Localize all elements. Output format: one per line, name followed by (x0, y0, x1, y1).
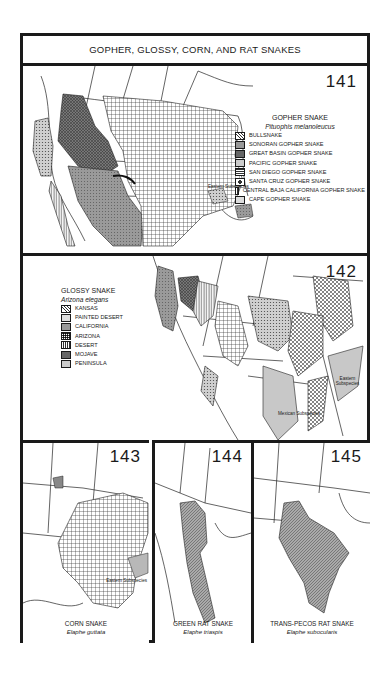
legend-item: CAPE GOPHER SNAKE (235, 195, 365, 204)
plate-frame: GOPHER, GLOSSY, CORN, AND RAT SNAKES (20, 33, 370, 643)
page-title: GOPHER, GLOSSY, CORN, AND RAT SNAKES (23, 36, 367, 66)
caption-green-rat-snake: GREEN RAT SNAKE Elaphe triaspis (155, 619, 251, 637)
legend-scientific-name: Pituophis melanoleucus (235, 122, 365, 131)
map-number: 142 (326, 262, 357, 282)
corn-snake-range-map (23, 443, 149, 643)
map-panel-144: 144 GREEN RAT SNAKE Elaphe triaspis (152, 440, 251, 643)
legend-item: CENTRAL BAJA CALIFORNIA GOPHER SNAKE (235, 186, 365, 195)
legend-item: KANSAS (61, 304, 151, 313)
swatch-icon (61, 323, 71, 331)
scientific-name: Elaphe subocularis (254, 628, 370, 637)
map-panel-142: 142 Eastern Subspecies Mexican Subspecie… (23, 253, 367, 440)
map-panel-145: 145 TRANS-PECOS RAT SNAKE Elaphe subocul… (251, 440, 370, 643)
swatch-icon (235, 132, 245, 140)
swatch-icon (61, 351, 71, 359)
swatch-icon (235, 168, 245, 176)
map-number: 144 (212, 447, 243, 467)
legend-item: PAINTED DESERT (61, 313, 151, 322)
caption-trans-pecos-rat-snake: TRANS-PECOS RAT SNAKE Elaphe subocularis (254, 619, 370, 637)
map-number: 145 (331, 447, 362, 467)
legend-item: ARIZONA (61, 332, 151, 341)
swatch-icon (235, 159, 245, 167)
swatch-icon (61, 360, 71, 368)
scientific-name: Elaphe triaspis (155, 628, 251, 637)
legend-item: PACIFIC GOPHER SNAKE (235, 159, 365, 168)
swatch-icon (61, 314, 71, 322)
legend-title: GLOSSY SNAKE (61, 286, 151, 295)
legend-title: GOPHER SNAKE (235, 113, 365, 122)
swatch-icon (235, 178, 245, 186)
annotation-eastern-subspecies: Eastern Subspecies (106, 578, 147, 583)
legend-glossy-snake: GLOSSY SNAKE Arizona elegans KANSAS PAIN… (61, 286, 151, 368)
legend-scientific-name: Arizona elegans (61, 295, 151, 304)
legend-item: GREAT BASIN GOPHER SNAKE (235, 149, 365, 158)
swatch-icon (235, 141, 245, 149)
legend-item: MOJAVE (61, 350, 151, 359)
swatch-icon (235, 150, 245, 158)
legend-item: PENINSULA (61, 359, 151, 368)
scientific-name: Elaphe guttata (23, 628, 149, 637)
annotation-eastern-subspecies: Eastern Subspecies (328, 376, 367, 386)
swatch-icon (61, 305, 71, 313)
common-name: GREEN RAT SNAKE (155, 619, 251, 628)
swatch-icon (235, 187, 239, 195)
map-panel-141: 141 Eastern Subspecies GOPHER SNAKE Pitu… (23, 66, 367, 250)
annotation-mexican-subspecies: Mexican Subspecies (278, 411, 320, 416)
common-name: CORN SNAKE (23, 619, 149, 628)
map-panel-143: 143 Eastern Subspecies CORN SNAKE Elaphe… (23, 440, 149, 643)
legend-item: SANTA CRUZ GOPHER SNAKE (235, 177, 365, 186)
legend-item: BULLSNAKE (235, 131, 365, 140)
swatch-icon (61, 332, 71, 340)
caption-corn-snake: CORN SNAKE Elaphe guttata (23, 619, 149, 637)
legend-item: CALIFORNIA (61, 322, 151, 331)
trans-pecos-rat-snake-range-map (254, 443, 370, 643)
swatch-icon (235, 196, 245, 204)
legend-gopher-snake: GOPHER SNAKE Pituophis melanoleucus BULL… (235, 113, 365, 205)
legend-item: SONORAN GOPHER SNAKE (235, 140, 365, 149)
legend-item: SAN DIEGO GOPHER SNAKE (235, 168, 365, 177)
legend-item: DESERT (61, 341, 151, 350)
common-name: TRANS-PECOS RAT SNAKE (254, 619, 370, 628)
swatch-icon (61, 341, 71, 349)
green-rat-snake-range-map (155, 443, 251, 643)
map-number: 143 (110, 447, 141, 467)
map-number: 141 (326, 72, 357, 92)
